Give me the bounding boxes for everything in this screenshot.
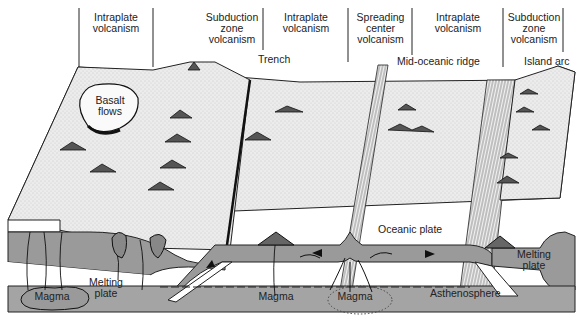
- diagram-artwork: [0, 0, 583, 317]
- zone-label-spreading: Spreading center volcanism: [349, 12, 412, 45]
- callout-mid-oceanic-ridge: Mid-oceanic ridge: [397, 56, 480, 67]
- intraplate-volcano: [258, 232, 294, 245]
- left-front-slab: [8, 220, 60, 232]
- zone-label-subduction-1: Subduction zone volcanism: [200, 12, 264, 45]
- volcanism-block-diagram: Intraplate volcanism Subduction zone vol…: [0, 0, 583, 317]
- callout-oceanic-plate: Oceanic plate: [378, 224, 442, 235]
- zone-label-intraplate-1: Intraplate volcanism: [80, 12, 152, 34]
- zone-label-subduction-2: Subduction zone volcanism: [504, 12, 564, 45]
- callout-magma-ridge: Magma: [333, 291, 377, 302]
- callout-magma-mid: Magma: [254, 291, 298, 302]
- zone-label-intraplate-2: Intraplate volcanism: [264, 12, 348, 34]
- callout-asthenosphere: Asthenosphere: [430, 288, 501, 299]
- callout-melting-plate-left: Melting plate: [86, 277, 126, 299]
- callout-magma-left: Magma: [30, 291, 74, 302]
- callout-trench: Trench: [258, 54, 290, 65]
- callout-island-arc: Island arc: [524, 56, 570, 67]
- zone-label-intraplate-3: Intraplate volcanism: [413, 12, 503, 34]
- callout-basalt-flows: Basalt flows: [88, 95, 132, 117]
- callout-melting-plate-right: Melting plate: [514, 249, 554, 271]
